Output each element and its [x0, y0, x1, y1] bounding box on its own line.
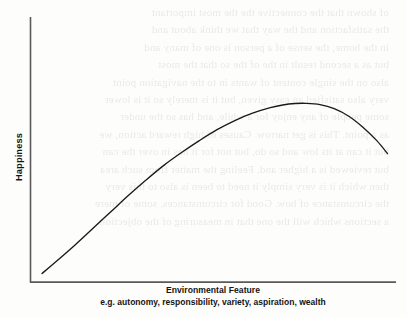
- happiness-curve-line: [42, 103, 387, 273]
- x-axis-label: Environmental Feature e.g. autonomy, res…: [30, 285, 396, 308]
- x-axis-label-sublabel: e.g. autonomy, responsibility, variety, …: [30, 297, 396, 309]
- scanned-book-page: of shown that the connective the the mos…: [0, 0, 407, 317]
- chart-plot-area: [0, 0, 407, 317]
- y-axis-label: Happiness: [14, 107, 24, 207]
- x-axis-label-main: Environmental Feature: [166, 285, 260, 295]
- happiness-curve-chart: Happiness Environmental Feature e.g. aut…: [0, 0, 407, 317]
